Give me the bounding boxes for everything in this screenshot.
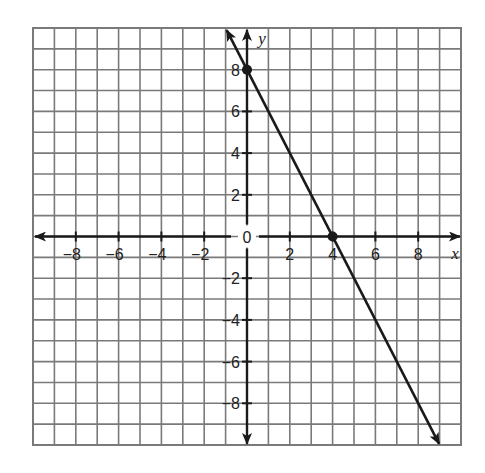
origin-label: 0 [243,229,252,246]
y-tick-label: −6 [222,354,240,371]
y-tick-label: −4 [222,312,240,329]
y-axis-label: y [256,29,266,48]
x-tick-label: 6 [371,246,380,263]
marked-point [242,65,252,75]
y-tick-label: 8 [231,62,240,79]
x-tick-label: 4 [328,246,337,263]
y-tick-label: 4 [231,145,240,162]
coordinate-plane: −8−6−4−224688642−2−4−6−80xy [0,0,485,473]
x-tick-label: −4 [148,246,166,263]
x-tick-label: −8 [63,246,81,263]
x-tick-label: −6 [105,246,123,263]
y-tick-label: 6 [231,103,240,120]
x-axis-label: x [450,244,459,263]
x-tick-label: −2 [191,246,209,263]
x-tick-label: 8 [414,246,423,263]
y-tick-label: −2 [222,270,240,287]
y-tick-label: −8 [222,395,240,412]
x-tick-label: 2 [285,246,294,263]
marked-point [328,232,338,242]
y-tick-label: 2 [231,187,240,204]
